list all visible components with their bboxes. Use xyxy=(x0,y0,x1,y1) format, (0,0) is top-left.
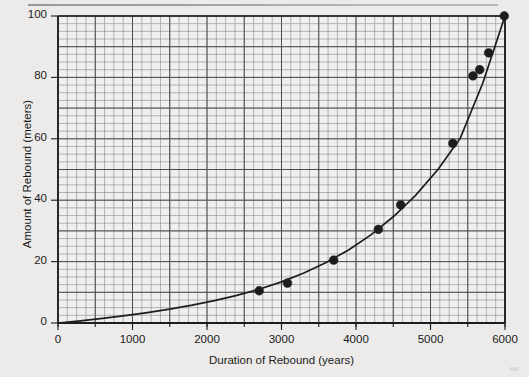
data-point xyxy=(484,48,493,57)
chart-plot-area: 020406080100 0100020003000400050006000 A… xyxy=(0,0,529,377)
data-point xyxy=(255,286,264,295)
y-tick-label: 0 xyxy=(7,315,47,327)
x-tick-label: 6000 xyxy=(475,333,529,345)
x-tick-label: 0 xyxy=(28,333,88,345)
data-point xyxy=(469,71,478,80)
data-point xyxy=(396,200,405,209)
data-point xyxy=(374,225,383,234)
x-tick-label: 2000 xyxy=(177,333,237,345)
data-point xyxy=(475,65,484,74)
figure-container: 020406080100 0100020003000400050006000 A… xyxy=(0,0,529,377)
rebound-scatter-chart xyxy=(0,0,529,377)
data-point xyxy=(448,139,457,148)
data-point xyxy=(329,256,338,265)
x-tick-label: 5000 xyxy=(401,333,461,345)
y-tick-label: 100 xyxy=(7,8,47,20)
x-tick-label: 4000 xyxy=(326,333,386,345)
data-point xyxy=(283,279,292,288)
y-axis-label: Amount of Rebound (meters) xyxy=(21,79,33,269)
scan-corner-speck xyxy=(509,367,519,371)
x-axis-label: Duration of Rebound (years) xyxy=(58,354,505,366)
x-tick-label: 3000 xyxy=(252,333,312,345)
x-tick-label: 1000 xyxy=(103,333,163,345)
